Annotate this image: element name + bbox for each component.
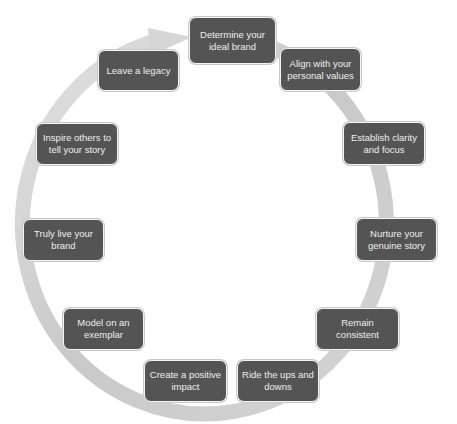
step-ride-ups-and-downs: Ride the ups and downs — [237, 360, 319, 402]
step-inspire-others: Inspire others to tell your story — [36, 123, 118, 165]
step-label: Model on an exemplar — [68, 317, 139, 341]
step-nurture-genuine-story: Nurture your genuine story — [356, 218, 437, 261]
step-create-positive-impact: Create a positive impact — [144, 360, 227, 402]
step-label: Align with your personal values — [285, 58, 356, 82]
step-label: Remain consistent — [321, 317, 394, 341]
step-label: Create a positive impact — [149, 369, 222, 393]
step-label: Ride the ups and downs — [242, 369, 314, 393]
step-label: Establish clarity and focus — [348, 132, 420, 156]
step-label: Inspire others to tell your story — [41, 132, 113, 156]
step-determine-ideal-brand: Determine your ideal brand — [189, 17, 276, 64]
step-leave-legacy: Leave a legacy — [98, 50, 179, 91]
step-label: Nurture your genuine story — [361, 228, 432, 252]
step-label: Truly live your brand — [28, 228, 99, 252]
step-model-on-exemplar: Model on an exemplar — [63, 308, 144, 350]
step-remain-consistent: Remain consistent — [316, 308, 399, 350]
step-truly-live-brand: Truly live your brand — [23, 219, 104, 261]
step-label: Determine your ideal brand — [194, 29, 271, 53]
step-establish-clarity: Establish clarity and focus — [343, 122, 425, 165]
step-align-personal-values: Align with your personal values — [280, 48, 361, 91]
step-label: Leave a legacy — [107, 65, 171, 77]
